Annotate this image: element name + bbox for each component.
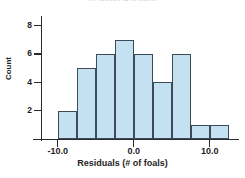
chart-title: Residuals (# of foals) bbox=[0, 0, 245, 1]
histogram-bar bbox=[115, 40, 134, 139]
histogram-bar bbox=[96, 54, 115, 139]
histogram-bar bbox=[77, 68, 96, 139]
histogram-bar bbox=[153, 82, 172, 139]
y-tick-label: 2 bbox=[18, 106, 32, 114]
histogram-bar bbox=[191, 125, 210, 139]
histogram-figure: Residuals (# of foals) Count 8642 -10.00… bbox=[0, 0, 245, 178]
x-tick-label: 0.0 bbox=[111, 146, 157, 156]
y-tick-label: 4 bbox=[18, 78, 32, 86]
plot-area bbox=[41, 17, 237, 139]
y-axis-label: Count bbox=[4, 45, 13, 93]
x-tick-label: 10.0 bbox=[187, 146, 233, 156]
y-tick-label: 8 bbox=[18, 21, 32, 29]
x-tick-label: -10.0 bbox=[35, 146, 81, 156]
histogram-bar bbox=[58, 111, 77, 139]
histogram-bar bbox=[172, 54, 191, 139]
x-axis-label: Residuals (# of foals) bbox=[0, 158, 245, 168]
histogram-bar bbox=[210, 125, 229, 139]
histogram-bar bbox=[134, 54, 153, 139]
y-tick-label: 6 bbox=[18, 49, 32, 57]
